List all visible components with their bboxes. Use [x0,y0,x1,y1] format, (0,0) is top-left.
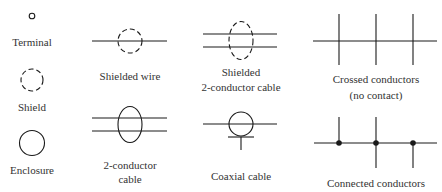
shielded-wire-label: Shielded wire [100,70,161,83]
terminal-label: Terminal [12,36,52,49]
shielded-two-conductor-cable-label-line1: Shielded [222,66,261,79]
coaxial-cable-label: Coaxial cable [211,170,271,183]
shielded-wire-symbol [92,29,167,53]
two-conductor-cable-label-line1: 2-conductor [103,159,156,172]
shielded-two-conductor-cable-symbol [203,22,277,60]
enclosure-symbol [20,131,45,156]
shielded-two-conductor-cable-label-line2: 2-conductor cable [201,81,280,94]
coaxial-cable-symbol [203,112,277,150]
crossed-conductors-symbol [313,14,437,65]
enclosure-label: Enclosure [10,164,54,177]
connected-conductors-label: Connected conductors [327,177,425,190]
terminal-symbol [29,13,35,19]
shield-label: Shield [18,101,46,114]
crossed-conductors-label-line2: (no contact) [350,89,403,102]
crossed-conductors-label-line1: Crossed conductors [333,73,419,86]
two-conductor-cable-symbol [92,107,167,143]
two-conductor-cable-label-line2: cable [118,173,141,186]
shield-symbol [21,69,43,91]
